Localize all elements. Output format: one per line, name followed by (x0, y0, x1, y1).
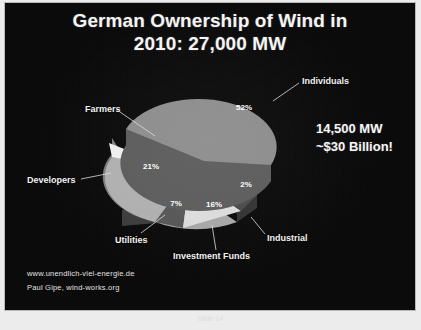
leader-line-individuals (273, 83, 299, 101)
pie-chart: 52% 21% 7% 16% 2% (5, 3, 415, 310)
label-industrial: Industrial (267, 233, 308, 243)
label-individuals: Individuals (302, 76, 349, 86)
label-investment-funds: Investment Funds (173, 251, 250, 261)
credit-website: www.unendlich-viel-energie.de (27, 267, 135, 281)
slice-value-individuals: 52% (236, 103, 252, 112)
label-farmers: Farmers (85, 104, 121, 114)
credit-author: Paul Gipe, wind-works.org (27, 281, 135, 295)
label-utilities: Utilities (115, 235, 148, 245)
leader-line-investment-funds (212, 225, 216, 250)
slice-value-utilities: 7% (170, 199, 182, 208)
annotation-line-2: ~$30 Billion! (316, 138, 393, 156)
annotation-line-1: 14,500 MW (316, 120, 393, 138)
leader-line-industrial (251, 217, 265, 234)
presentation-slide-panel: German Ownership of Wind in 2010: 27,000… (4, 2, 416, 311)
slide-undercaption: Slide 14 (0, 315, 421, 323)
label-developers: Developers (27, 175, 76, 185)
slice-value-industrial: 2% (240, 180, 252, 189)
slice-value-investment-funds: 16% (206, 200, 222, 209)
slide-canvas: German Ownership of Wind in 2010: 27,000… (0, 0, 421, 330)
capacity-annotation: 14,500 MW ~$30 Billion! (316, 120, 393, 156)
slice-value-developers: 21% (143, 162, 159, 171)
source-credits: www.unendlich-viel-energie.de Paul Gipe,… (27, 267, 135, 295)
